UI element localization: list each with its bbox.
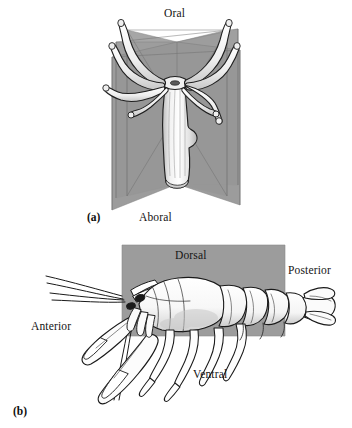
antennae <box>46 276 125 302</box>
label-anterior: Anterior <box>31 320 71 332</box>
panel-label-b: (b) <box>13 405 27 417</box>
lobster <box>46 276 335 404</box>
label-posterior: Posterior <box>288 264 331 276</box>
label-ventral: Ventral <box>193 368 227 380</box>
figure-root: Oral Aboral (a) <box>0 0 352 428</box>
label-oral: Oral <box>164 7 185 19</box>
label-dorsal: Dorsal <box>175 249 207 261</box>
tail-fan <box>303 288 335 326</box>
label-aboral: Aboral <box>139 211 172 223</box>
panel-a-illustration <box>0 0 352 232</box>
panel-label-a: (a) <box>87 211 100 223</box>
